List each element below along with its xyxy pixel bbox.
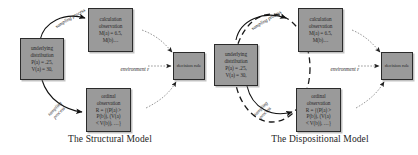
- node-underlying-distribution-dispositional: underlying distribution P(a) = .25, V(a)…: [214, 44, 258, 86]
- edge-label-text: environment ε: [331, 66, 359, 72]
- node-ordinal-observation-dispositional: ordinal observation R = {(P(a) > P(b)), …: [296, 88, 341, 132]
- edge-label-environment-dispositional: environment ε: [311, 60, 359, 72]
- edge-calculation-to-decision-structural: [142, 30, 172, 52]
- node-calculation-observation-dispositional: calculation observation M(a) = 6.5, M(b)…: [298, 8, 343, 52]
- edge-label-environment-structural: environment ε: [101, 60, 149, 72]
- node-label: ordinal observation R = {(P(a) > P(b)), …: [299, 93, 338, 128]
- caption-structural-model: The Structural Model: [50, 134, 170, 144]
- edge-ordinal-to-decision-dispositional: [356, 82, 384, 108]
- caption-text: The Dispositional Model: [271, 134, 368, 144]
- edge-label-text: environment ε: [121, 66, 149, 72]
- node-ordinal-observation-structural: ordinal observation R = {(P(a) > P(b)), …: [86, 88, 131, 132]
- node-decision-rule-structural: decision rule: [173, 52, 205, 80]
- figure-root: underlying distribution P(a) = .25, V(a)…: [0, 0, 418, 155]
- node-label: ordinal observation R = {(P(a) > P(b)), …: [89, 93, 128, 128]
- node-label: calculation observation M(a) = 6.5, M(b)…: [91, 16, 130, 44]
- caption-dispositional-model: The Dispositional Model: [255, 134, 385, 144]
- node-label: decision rule: [176, 63, 202, 70]
- caption-text: The Structural Model: [68, 134, 152, 144]
- node-label: underlying distribution P(a) = .25, V(a)…: [217, 51, 255, 79]
- edge-ordinal-to-decision-structural: [146, 82, 176, 108]
- node-underlying-distribution-structural: underlying distribution P(a) = .25, V(a)…: [20, 38, 64, 80]
- edge-calculation-to-decision-dispositional: [352, 30, 380, 52]
- node-label: calculation observation M(a) = 6.5, M(b)…: [301, 16, 340, 44]
- node-decision-rule-dispositional: decision rule: [381, 52, 413, 80]
- node-calculation-observation-structural: calculation observation M(a) = 6.5, M(b)…: [88, 8, 133, 52]
- node-label: decision rule: [384, 63, 410, 70]
- node-label: underlying distribution P(a) = .25, V(a)…: [23, 45, 61, 73]
